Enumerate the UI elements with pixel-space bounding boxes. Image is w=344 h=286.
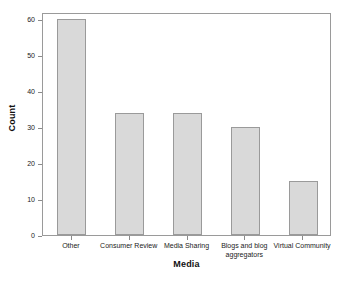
y-axis-tick-label: 40 xyxy=(27,87,35,96)
x-axis-tick-label: Blogs and blog aggregators xyxy=(215,242,273,259)
x-axis-tick-mark xyxy=(302,236,303,240)
x-axis-tick-mark xyxy=(244,236,245,240)
bar xyxy=(173,113,202,235)
y-axis-tick-label: 60 xyxy=(27,15,35,24)
bar xyxy=(115,113,144,235)
plot-area xyxy=(42,13,331,236)
y-axis-tick-label: 10 xyxy=(27,195,35,204)
y-axis-tick-label: 50 xyxy=(27,51,35,60)
y-axis: 0102030405060 xyxy=(0,0,42,286)
y-axis-tick-label: 30 xyxy=(27,123,35,132)
x-axis-tick-mark xyxy=(71,236,72,240)
x-axis-tick-mark xyxy=(129,236,130,240)
y-axis-tick-label: 0 xyxy=(31,231,35,240)
x-axis-tick-mark xyxy=(187,236,188,240)
x-axis-tick-label: Media Sharing xyxy=(158,242,216,251)
bar xyxy=(57,19,86,235)
x-axis-tick-label: Virtual Community xyxy=(273,242,331,251)
bar-chart: Count 0102030405060 OtherConsumer Review… xyxy=(0,0,344,286)
y-axis-tick-label: 20 xyxy=(27,159,35,168)
bar xyxy=(231,127,260,235)
bars-layer xyxy=(43,14,330,235)
x-axis-tick-label: Consumer Review xyxy=(100,242,158,251)
x-axis-title: Media xyxy=(42,259,331,269)
bar xyxy=(289,181,318,235)
x-axis-tick-label: Other xyxy=(42,242,100,251)
